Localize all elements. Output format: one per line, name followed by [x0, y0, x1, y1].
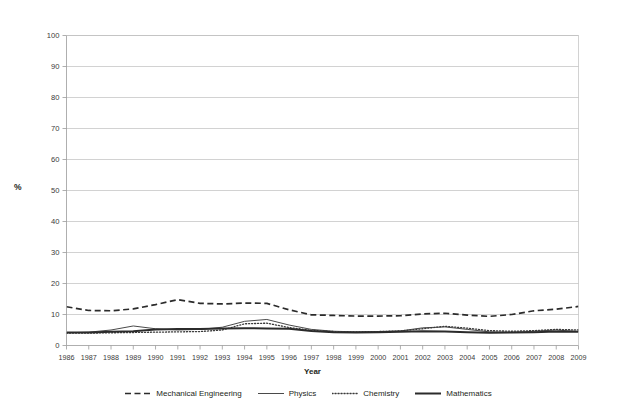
x-tick-label: 1997 [303, 353, 319, 362]
x-axis-title-text: Year [296, 367, 321, 376]
y-tick-label: 100 [47, 31, 60, 40]
x-tick-label: 1996 [281, 353, 297, 362]
x-tick-label: 2002 [415, 353, 431, 362]
x-tick-label: 2008 [548, 353, 564, 362]
y-tick-label: 90 [51, 62, 59, 71]
data-series-group [67, 300, 579, 333]
legend-label: Physics [289, 390, 317, 398]
plot-area: 0102030405060708090100 19861987198819891… [0, 0, 617, 406]
legend-label: Mathematics [446, 390, 491, 398]
legend-swatch-solid-thick-icon [415, 389, 441, 398]
x-tick-label: 1998 [326, 353, 342, 362]
x-tick-label: 2009 [571, 353, 587, 362]
x-tick-label: 2003 [437, 353, 453, 362]
y-tick-label: 50 [51, 186, 59, 195]
x-tick-label: 1999 [348, 353, 364, 362]
y-tick-label: 60 [51, 155, 59, 164]
x-tick-label: 1987 [81, 353, 97, 362]
x-tick-label: 1994 [237, 353, 253, 362]
legend-label: Chemistry [363, 390, 399, 398]
x-tick-label: 2000 [370, 353, 386, 362]
legend-swatch-solid-thin-icon [258, 389, 284, 398]
x-tick-marks-group [67, 346, 579, 350]
x-tick-label: 1991 [170, 353, 186, 362]
chart-container: % 0102030405060708090100 198619871988198… [0, 0, 617, 406]
x-tick-label: 1989 [125, 353, 141, 362]
x-tick-labels-group: 1986198719881989199019911992199319941995… [59, 353, 587, 362]
x-tick-label: 1986 [59, 353, 75, 362]
legend-item-chemistry: Chemistry [332, 389, 399, 398]
x-tick-label: 1993 [214, 353, 230, 362]
legend-item-mathematics: Mathematics [415, 389, 491, 398]
y-tick-label: 40 [51, 217, 59, 226]
y-tick-label: 70 [51, 124, 59, 133]
gridlines-group [67, 36, 579, 315]
y-tick-label: 80 [51, 93, 59, 102]
legend-item-mechanical-engineering: Mechanical Engineering [125, 389, 241, 398]
legend-label: Mechanical Engineering [156, 390, 241, 398]
x-tick-label: 2006 [504, 353, 520, 362]
y-tick-label: 10 [51, 310, 59, 319]
y-tick-labels-group: 0102030405060708090100 [47, 31, 67, 350]
x-axis-title: Year [0, 367, 617, 376]
x-tick-label: 2004 [459, 353, 475, 362]
x-tick-label: 2005 [481, 353, 497, 362]
y-tick-label: 30 [51, 248, 59, 257]
x-tick-label: 1990 [148, 353, 164, 362]
chart-legend: Mechanical Engineering Physics Chemistry… [0, 389, 617, 398]
x-tick-label: 1995 [259, 353, 275, 362]
series-line-mechanical-engineering [67, 300, 579, 317]
x-tick-label: 2001 [392, 353, 408, 362]
chart-svg: 0102030405060708090100 19861987198819891… [0, 0, 617, 406]
y-tick-label: 20 [51, 279, 59, 288]
x-tick-label: 1988 [103, 353, 119, 362]
legend-item-physics: Physics [258, 389, 317, 398]
y-tick-label: 0 [55, 341, 59, 350]
legend-swatch-dashed-icon [125, 389, 151, 398]
legend-swatch-dotted-icon [332, 389, 358, 398]
x-tick-label: 2007 [526, 353, 542, 362]
x-tick-label: 1992 [192, 353, 208, 362]
